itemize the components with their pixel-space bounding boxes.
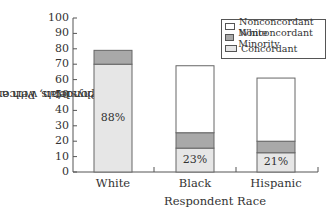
legend-swatch [225,23,235,30]
y-tick-label: 30 [47,119,69,132]
legend-swatch [225,34,234,41]
x-category-label: White [78,176,148,190]
bar-segment [257,78,295,141]
bar-segment [257,141,295,153]
legend-entry: Nonconcordant Minority [225,32,325,43]
y-tick-label: 60 [47,73,69,86]
bar-annotation: 23% [170,153,220,166]
y-tick-label: 20 [47,134,69,147]
y-tick-label: 10 [47,150,69,163]
x-axis-title: Respondent Race [115,194,315,208]
legend-swatch [225,45,237,52]
bar-segment [176,133,214,148]
y-tick-label: 80 [47,42,69,55]
legend-label: Concordant [241,43,297,54]
y-tick-label: 100 [47,11,69,24]
legend: Nonconcordant WhiteNonconcordant Minorit… [221,19,326,59]
y-tick-label: 50 [47,88,69,101]
y-tick-label: 0 [47,165,69,178]
y-tick-label: 70 [47,57,69,70]
bar-annotation: 21% [251,155,301,168]
x-category-label: Hispanic [241,176,311,190]
stacked-bar-chart: Respondents with a RegularPhysician, Per… [0,0,330,213]
bar-segment [94,50,132,64]
y-tick-label: 40 [47,103,69,116]
bar-segment [176,66,214,133]
y-tick-label: 90 [47,26,69,39]
bar-annotation: 88% [88,111,138,124]
x-category-label: Black [160,176,230,190]
